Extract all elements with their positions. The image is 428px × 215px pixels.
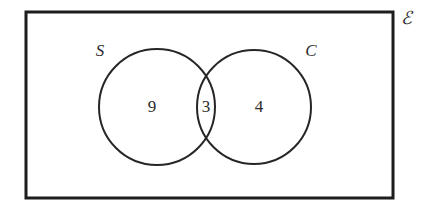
set-label-c: C (305, 41, 317, 60)
universal-set-label: ℰ (401, 8, 414, 28)
region-count-intersection: 3 (202, 97, 211, 116)
set-label-s: S (96, 41, 105, 60)
venn-diagram-figure: ℰ S C 9 3 4 (0, 0, 428, 215)
region-count-c-only: 4 (255, 97, 264, 116)
venn-diagram-canvas: ℰ S C 9 3 4 (0, 0, 428, 215)
region-count-s-only: 9 (148, 97, 157, 116)
